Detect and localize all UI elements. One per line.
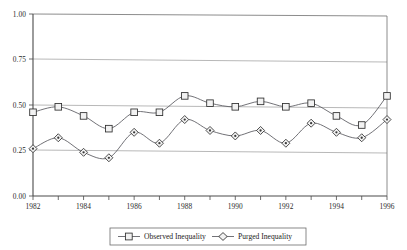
legend-entry-observed[interactable]: Observed Inequality bbox=[118, 232, 206, 241]
diamond-marker-center bbox=[335, 131, 337, 133]
diamond-marker-center bbox=[234, 135, 236, 137]
chart-legend: Observed Inequality Purged Inequality bbox=[110, 228, 306, 245]
diamond-marker-center bbox=[285, 142, 287, 144]
diamond-marker-center bbox=[158, 142, 160, 144]
diamond-marker-center bbox=[386, 118, 388, 120]
diamond-marker-center bbox=[133, 131, 135, 133]
y-tick-label-4: 0.25 bbox=[13, 146, 27, 155]
square-marker bbox=[207, 100, 214, 107]
square-marker bbox=[181, 93, 188, 100]
square-marker bbox=[30, 109, 37, 116]
square-marker bbox=[308, 100, 315, 107]
legend-label-observed: Observed Inequality bbox=[144, 232, 206, 241]
y-tick-label-1: 1.00 bbox=[13, 10, 27, 19]
square-marker bbox=[131, 109, 138, 116]
square-marker bbox=[333, 113, 340, 120]
y-axis-labels: 1.00 0.75 0.50 0.25 0.00 bbox=[13, 10, 27, 201]
x-tick-label: 1996 bbox=[379, 202, 394, 211]
x-axis-labels: 19821984198619881990199219941996 bbox=[25, 202, 394, 211]
y-tick-label-3: 0.50 bbox=[13, 101, 27, 110]
x-tick-label: 1994 bbox=[329, 202, 344, 211]
diamond-marker-center bbox=[108, 157, 110, 159]
square-marker bbox=[156, 109, 163, 116]
square-marker bbox=[358, 122, 365, 129]
diamond-marker-center bbox=[310, 122, 312, 124]
inequality-line-chart: 1.00 0.75 0.50 0.25 0.00 198219841986198… bbox=[0, 0, 407, 250]
diamond-marker-center bbox=[361, 137, 363, 139]
square-marker bbox=[283, 104, 290, 111]
square-marker bbox=[125, 233, 132, 240]
square-marker bbox=[232, 104, 239, 111]
square-marker bbox=[384, 93, 391, 100]
x-tick-label: 1986 bbox=[127, 202, 142, 211]
x-tick-label: 1992 bbox=[278, 202, 293, 211]
x-tick-label: 1988 bbox=[177, 202, 192, 211]
x-tick-label: 1990 bbox=[228, 202, 243, 211]
diamond-marker-center bbox=[259, 129, 261, 131]
legend-label-purged: Purged Inequality bbox=[238, 232, 292, 241]
square-marker bbox=[55, 104, 62, 111]
diamond-marker-center bbox=[57, 137, 59, 139]
diamond-marker-center bbox=[32, 148, 34, 150]
y-tick-label-2: 0.75 bbox=[13, 55, 27, 64]
y-axis-ticks bbox=[29, 14, 33, 196]
diamond-marker-center bbox=[184, 118, 186, 120]
x-axis-ticks bbox=[33, 196, 387, 200]
square-marker bbox=[257, 98, 264, 105]
x-tick-label: 1984 bbox=[76, 202, 91, 211]
diamond-marker-center bbox=[82, 151, 84, 153]
diamond-marker-center bbox=[209, 129, 211, 131]
y-tick-label-5: 0.00 bbox=[13, 192, 27, 201]
x-tick-label: 1982 bbox=[25, 202, 40, 211]
square-marker bbox=[80, 113, 87, 120]
square-marker bbox=[106, 125, 113, 132]
